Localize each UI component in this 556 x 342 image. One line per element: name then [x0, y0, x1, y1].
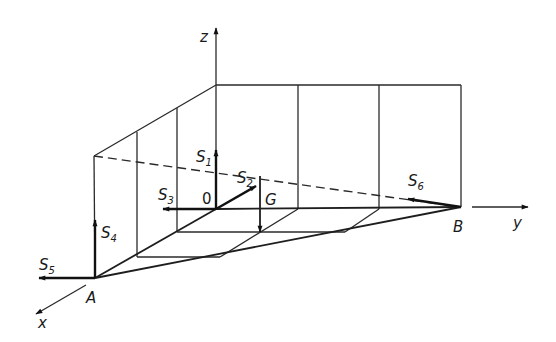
point-A-label: A	[85, 289, 96, 307]
force-S1-label: S1	[196, 148, 212, 168]
z-axis-label: z	[199, 28, 209, 46]
origin-label: 0	[202, 190, 212, 208]
force-S2-label: S2	[237, 169, 253, 189]
y-axis-line	[216, 207, 461, 209]
plate-hidden-edge	[94, 156, 461, 207]
y-axis-label: y	[512, 214, 523, 232]
x-axis-arrow	[36, 285, 86, 314]
force-S4-label: S4	[101, 224, 117, 244]
floor-grid-line	[220, 209, 298, 257]
point-B-label: B	[453, 218, 463, 236]
x-axis-label: x	[37, 314, 47, 332]
force-S6-arrow	[408, 199, 461, 207]
force-S3-label: S3	[158, 186, 174, 206]
force-S5-label: S5	[39, 256, 55, 276]
diagram-svg: z y x 0 A B G S1 S2 S3 S4 S5 S6	[0, 0, 556, 342]
plate-edge-AB	[95, 207, 461, 278]
point-G-label: G	[265, 191, 277, 209]
left-wall	[94, 85, 216, 278]
diagram-canvas: z y x 0 A B G S1 S2 S3 S4 S5 S6	[0, 0, 556, 342]
force-S2-arrow	[216, 186, 256, 209]
left-wall-top-edge	[94, 85, 216, 156]
force-S6-label: S6	[408, 172, 424, 192]
